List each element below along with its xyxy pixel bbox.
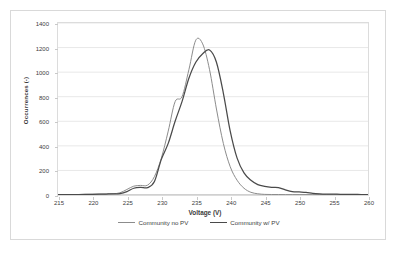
legend-item-community-no-pv: Community no PV (118, 219, 188, 226)
x-axis-tick-label: 215 (44, 200, 74, 206)
y-axis-tick-mark (55, 24, 58, 25)
x-axis-tick-mark (266, 197, 267, 200)
figure-frame: Occurrences (-) 020040060080010001200140… (10, 10, 386, 240)
y-axis-tick-label: 800 (9, 95, 49, 101)
x-axis-tick-mark (300, 197, 301, 200)
y-axis-tick-mark (55, 147, 58, 148)
legend-line-swatch-1 (118, 222, 135, 223)
y-axis-tick-label: 0 (9, 193, 49, 199)
y-axis-tick-label: 600 (9, 119, 49, 125)
y-axis-tick-label: 1200 (9, 46, 49, 52)
x-axis-tick-mark (59, 197, 60, 200)
x-axis-tick-label: 230 (147, 200, 177, 206)
x-axis-tick-mark (369, 197, 370, 200)
x-axis-tick-mark (335, 197, 336, 200)
x-axis-tick-label: 235 (182, 200, 212, 206)
x-axis-tick-mark (128, 197, 129, 200)
chart-figure: Occurrences (-) 020040060080010001200140… (0, 0, 396, 257)
x-axis-tick-label: 250 (285, 200, 315, 206)
plot-area: 0200400600800100012001400215220225230235… (57, 22, 369, 196)
x-axis-tick-label: 260 (354, 200, 384, 206)
y-axis-tick-label: 1000 (9, 70, 49, 76)
x-axis-tick-mark (93, 197, 94, 200)
y-axis-tick-mark (55, 49, 58, 50)
x-axis-tick-mark (162, 197, 163, 200)
chart-legend: Community no PV Community w/ PV (11, 219, 387, 226)
y-axis-tick-mark (55, 196, 58, 197)
x-axis-tick-label: 220 (78, 200, 108, 206)
x-axis-tick-label: 225 (113, 200, 143, 206)
x-axis-tick-label: 255 (320, 200, 350, 206)
legend-line-swatch-2 (210, 222, 227, 223)
y-axis-tick-label: 400 (9, 144, 49, 150)
y-axis-tick-mark (55, 98, 58, 99)
y-axis-tick-label: 1400 (9, 21, 49, 27)
x-axis-title: Voltage (V) (35, 209, 375, 216)
x-axis-tick-label: 240 (216, 200, 246, 206)
y-axis-tick-mark (55, 171, 58, 172)
y-axis-tick-mark (55, 122, 58, 123)
legend-label-1: Community no PV (138, 219, 188, 226)
plot-canvas (58, 23, 368, 195)
y-axis-tick-mark (55, 73, 58, 74)
legend-item-community-w-pv: Community w/ PV (210, 219, 279, 226)
legend-label-2: Community w/ PV (230, 219, 279, 226)
y-axis-tick-label: 200 (9, 168, 49, 174)
x-axis-tick-mark (197, 197, 198, 200)
x-axis-tick-label: 245 (251, 200, 281, 206)
x-axis-tick-mark (231, 197, 232, 200)
